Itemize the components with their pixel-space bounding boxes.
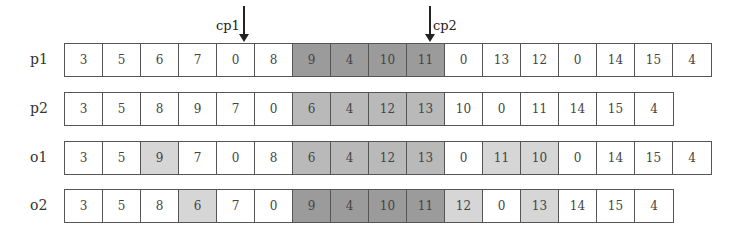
row-label: p2 <box>30 100 56 116</box>
chromosome-cells: 35670894101101312014154 <box>64 43 712 77</box>
gene-cell: 6 <box>293 93 331 125</box>
chromosome-cells: 3586709410111201314154 <box>64 189 674 223</box>
gene-cell: 0 <box>445 142 483 174</box>
gene-cell: 11 <box>521 93 559 125</box>
arrow-line <box>243 6 245 36</box>
gene-cell: 7 <box>179 44 217 76</box>
gene-cell: 4 <box>331 93 369 125</box>
gene-cell: 5 <box>103 93 141 125</box>
gene-cell: 7 <box>179 142 217 174</box>
gene-cell: 14 <box>559 93 597 125</box>
gene-cell: 11 <box>407 44 445 76</box>
chromosome-cells: 3589706412131001114154 <box>64 92 674 126</box>
gene-cell: 4 <box>673 44 711 76</box>
chromosome-cells: 35970864121301110014154 <box>64 141 712 175</box>
gene-cell: 14 <box>559 190 597 222</box>
arrow-line <box>429 6 431 36</box>
gene-cell: 4 <box>635 93 673 125</box>
gene-cell: 14 <box>597 142 635 174</box>
gene-cell: 12 <box>369 142 407 174</box>
gene-cell: 3 <box>65 142 103 174</box>
gene-cell: 10 <box>369 190 407 222</box>
gene-cell: 0 <box>217 142 255 174</box>
cut-point-label: cp2 <box>433 18 457 33</box>
gene-cell: 6 <box>293 142 331 174</box>
gene-cell: 7 <box>217 93 255 125</box>
gene-cell: 8 <box>141 190 179 222</box>
gene-cell: 11 <box>483 142 521 174</box>
gene-cell: 11 <box>407 190 445 222</box>
gene-cell: 0 <box>445 44 483 76</box>
gene-cell: 9 <box>141 142 179 174</box>
gene-cell: 5 <box>103 190 141 222</box>
gene-cell: 9 <box>293 190 331 222</box>
gene-cell: 10 <box>521 142 559 174</box>
gene-cell: 4 <box>635 190 673 222</box>
gene-cell: 8 <box>141 93 179 125</box>
arrow-down-icon <box>425 34 435 42</box>
gene-cell: 9 <box>179 93 217 125</box>
gene-cell: 3 <box>65 93 103 125</box>
gene-cell: 0 <box>483 190 521 222</box>
gene-cell: 12 <box>369 93 407 125</box>
gene-cell: 13 <box>521 190 559 222</box>
gene-cell: 10 <box>369 44 407 76</box>
row-label: o2 <box>30 197 56 213</box>
gene-cell: 0 <box>559 44 597 76</box>
cut-point-label: cp1 <box>216 18 240 33</box>
gene-cell: 0 <box>559 142 597 174</box>
gene-cell: 5 <box>103 142 141 174</box>
gene-cell: 9 <box>293 44 331 76</box>
gene-cell: 4 <box>331 190 369 222</box>
gene-cell: 13 <box>407 142 445 174</box>
gene-cell: 15 <box>635 142 673 174</box>
gene-cell: 4 <box>673 142 711 174</box>
gene-cell: 5 <box>103 44 141 76</box>
gene-cell: 14 <box>597 44 635 76</box>
gene-cell: 6 <box>179 190 217 222</box>
gene-cell: 12 <box>521 44 559 76</box>
arrow-down-icon <box>239 34 249 42</box>
gene-cell: 15 <box>635 44 673 76</box>
gene-cell: 0 <box>483 93 521 125</box>
gene-cell: 8 <box>255 142 293 174</box>
gene-cell: 0 <box>255 190 293 222</box>
gene-cell: 4 <box>331 142 369 174</box>
gene-cell: 0 <box>217 44 255 76</box>
gene-cell: 8 <box>255 44 293 76</box>
gene-cell: 7 <box>217 190 255 222</box>
gene-cell: 10 <box>445 93 483 125</box>
gene-cell: 4 <box>331 44 369 76</box>
gene-cell: 6 <box>141 44 179 76</box>
gene-cell: 0 <box>255 93 293 125</box>
row-label: o1 <box>30 149 56 165</box>
gene-cell: 13 <box>407 93 445 125</box>
gene-cell: 15 <box>597 93 635 125</box>
gene-cell: 12 <box>445 190 483 222</box>
gene-cell: 3 <box>65 44 103 76</box>
gene-cell: 3 <box>65 190 103 222</box>
gene-cell: 13 <box>483 44 521 76</box>
gene-cell: 15 <box>597 190 635 222</box>
row-label: p1 <box>30 51 56 67</box>
